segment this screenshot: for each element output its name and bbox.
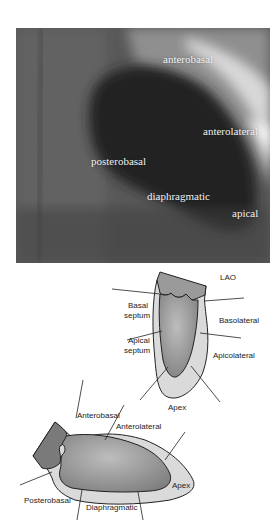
lao-label-basolateral: Basolateral — [219, 316, 259, 326]
lao-label-basal-septum-line1: Basal — [128, 301, 148, 311]
xray-label-posterobasal: posterobasal — [91, 156, 146, 167]
lao-label-apicolateral: Apicolateral — [213, 351, 255, 361]
rao-label-anterolateral: Anterolateral — [116, 422, 161, 432]
xray-background — [16, 28, 270, 263]
xray-label-anterolateral: anterolateral — [203, 126, 258, 137]
lao-label-apical-septum-line1: Apical — [128, 336, 150, 346]
lao-label-apical-septum-line2: septum — [124, 346, 150, 356]
ventricle-segment-diagrams: LAO Basal septum Apical septum Basolater… — [0, 263, 277, 520]
rao-label-posterobasal: Posterobasal — [24, 496, 71, 506]
lao-title: LAO — [220, 273, 236, 283]
lao-label-apex: Apex — [168, 403, 186, 413]
xray-label-anterobasal: anterobasal — [163, 54, 213, 65]
rao-label-anterobasal: Anterobasal — [77, 411, 120, 421]
xray-label-diaphragmatic: diaphragmatic — [147, 191, 210, 202]
xray-label-apical: apical — [232, 208, 258, 219]
ventriculogram-image: anterobasal anterolateral posterobasal d… — [16, 28, 270, 263]
rao-label-apex: Apex — [172, 481, 190, 491]
rao-label-diaphragmatic: Diaphragmatic — [86, 503, 138, 513]
lao-label-basal-septum-line2: septum — [124, 311, 150, 321]
